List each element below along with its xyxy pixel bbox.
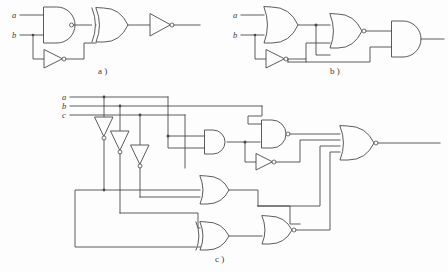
panel-c-or1-out-wire bbox=[229, 190, 258, 206]
panel-a-not-in-wire bbox=[33, 35, 44, 59]
panel-b-not-in-wire bbox=[255, 35, 266, 59]
panel-b-not-bubble bbox=[284, 57, 288, 61]
panel-a-input-label-b: b bbox=[12, 30, 16, 40]
panel-b-not-gate bbox=[266, 50, 284, 68]
panel-c-not-gate-a bbox=[95, 117, 113, 136]
panel-c-extra-out-nor-wire bbox=[258, 146, 340, 206]
panel-b-or-branch-wire bbox=[316, 25, 330, 55]
panel-b-and-gate bbox=[392, 21, 421, 57]
circuit-diagram-svg: a b a ) bbox=[0, 0, 448, 272]
panel-c-or-gate-1 bbox=[200, 176, 229, 204]
panel-c-not-gate-mid bbox=[256, 154, 272, 170]
figure-canvas: a b a ) bbox=[0, 0, 448, 272]
panel-c-not-bubble-c bbox=[138, 164, 142, 168]
panel-c-nor1-out-wire bbox=[296, 152, 340, 230]
panel-a-not-bubble bbox=[62, 57, 66, 61]
panel-c-and1-in2 bbox=[168, 136, 205, 148]
panel-a-output-bubble bbox=[170, 23, 174, 27]
panel-c-nand1-bubble bbox=[286, 132, 290, 136]
panel-c-caption: c ) bbox=[215, 254, 224, 264]
panel-c-and-gate-1 bbox=[205, 130, 225, 154]
panel-b-or-gate bbox=[264, 7, 298, 43]
panel-b-not-out-wire bbox=[288, 43, 330, 59]
panel-a: a b a ) bbox=[12, 7, 200, 76]
panel-c-nor-gate-1 bbox=[262, 216, 292, 244]
panel-a-xor-gate bbox=[96, 8, 128, 42]
panel-c-not-gate-c bbox=[131, 145, 149, 164]
panel-c: a b c bbox=[62, 92, 440, 264]
panel-c-nand-gate-1 bbox=[262, 120, 286, 148]
panel-b-input-label-b: b bbox=[233, 30, 237, 40]
panel-c-xor-gate-1 bbox=[200, 222, 229, 250]
panel-c-not-gate-b bbox=[111, 131, 129, 150]
panel-a-not-out-wire bbox=[66, 43, 96, 59]
panel-a-xor-extra-arc bbox=[92, 8, 96, 42]
panel-c-nor1-bubble bbox=[292, 228, 296, 232]
panel-a-output-not-gate bbox=[150, 14, 170, 36]
panel-b-caption: b ) bbox=[330, 66, 340, 76]
panel-b-input-label-a: a bbox=[233, 10, 237, 20]
panel-c-xor1-extra-arc bbox=[196, 222, 199, 250]
panel-c-notb-to-xor bbox=[120, 213, 198, 228]
panel-a-caption: a ) bbox=[98, 66, 107, 76]
panel-b-nor-gate bbox=[330, 14, 362, 48]
panel-c-nand1-in-top bbox=[248, 106, 262, 124]
panel-c-input-label-c: c bbox=[62, 110, 66, 120]
panel-b: a b b ) bbox=[233, 7, 444, 76]
panel-c-and1-branch-down bbox=[245, 142, 256, 162]
panel-c-left-feedback-wire bbox=[75, 190, 205, 247]
panel-a-input-label-a: a bbox=[12, 10, 16, 20]
panel-b-nor-bubble bbox=[362, 29, 366, 33]
panel-a-not-gate bbox=[44, 50, 62, 68]
panel-a-nand-bubble bbox=[70, 23, 74, 27]
panel-c-not-bubble-b bbox=[118, 150, 122, 154]
panel-c-output-bubble bbox=[374, 141, 378, 145]
panel-c-not-mid-bubble bbox=[272, 160, 276, 164]
panel-c-output-nor-gate bbox=[340, 126, 374, 160]
panel-c-not-bubble-a bbox=[102, 136, 106, 140]
panel-b-and-lower-wire bbox=[288, 47, 392, 62]
